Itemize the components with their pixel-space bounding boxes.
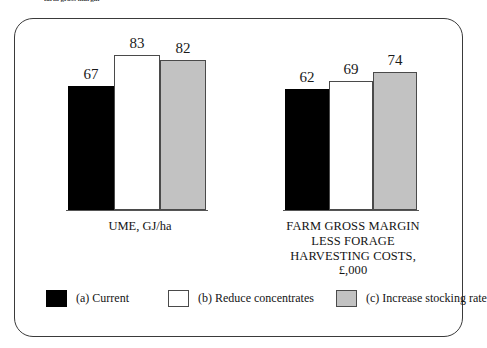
legend-label-reduce-concentrates: (b) Reduce concentrates <box>198 291 314 306</box>
group-label-fgm-line-2: LESS FORAGE <box>258 234 448 249</box>
group-label-ume: UME, GJ/ha <box>45 219 235 234</box>
baseline-farm-gross-margin <box>283 210 419 211</box>
legend: (a) Current (b) Reduce concentrates (c) … <box>46 288 446 310</box>
bar-slot-ume-increase-stocking-rate: 82 <box>160 0 206 210</box>
bar-slot-ume-reduce-concentrates: 83 <box>114 0 160 210</box>
baseline-ume <box>66 210 208 211</box>
legend-swatch-increase-stocking-rate-icon <box>336 290 357 307</box>
bar-value-fgm-reduce-concentrates: 69 <box>344 62 359 77</box>
legend-label-current: (a) Current <box>76 291 129 306</box>
bar-group-farm-gross-margin: 62 69 74 <box>285 0 417 210</box>
bar-group-ume: 67 83 82 <box>68 0 206 210</box>
legend-item-reduce-concentrates[interactable]: (b) Reduce concentrates <box>168 288 314 308</box>
legend-swatch-reduce-concentrates-icon <box>168 290 189 307</box>
group-label-fgm-line-3: HARVESTING COSTS, <box>258 249 448 264</box>
bar-value-fgm-increase-stocking-rate: 74 <box>388 53 403 68</box>
legend-item-increase-stocking-rate[interactable]: (c) Increase stocking rate <box>336 288 487 308</box>
group-label-farm-gross-margin: FARM GROSS MARGIN LESS FORAGE HARVESTING… <box>258 219 448 278</box>
legend-label-increase-stocking-rate: (c) Increase stocking rate <box>366 291 487 306</box>
group-label-fgm-line-1: FARM GROSS MARGIN <box>258 219 448 234</box>
group-label-fgm-line-4: £,000 <box>258 263 448 278</box>
bar-value-ume-reduce-concentrates: 83 <box>130 36 145 51</box>
legend-item-current[interactable]: (a) Current <box>46 288 129 308</box>
bar-ume-reduce-concentrates <box>114 55 160 210</box>
bar-value-fgm-current: 62 <box>300 70 315 85</box>
bar-fgm-increase-stocking-rate <box>373 72 417 210</box>
bar-value-ume-increase-stocking-rate: 82 <box>176 41 191 56</box>
bar-slot-fgm-increase-stocking-rate: 74 <box>373 0 417 210</box>
bar-fgm-reduce-concentrates <box>329 81 373 210</box>
group-label-ume-line-1: UME, GJ/ha <box>45 219 235 234</box>
bar-ume-current <box>68 86 114 210</box>
bar-slot-fgm-current: 62 <box>285 0 329 210</box>
bar-ume-increase-stocking-rate <box>160 60 206 210</box>
bar-slot-ume-current: 67 <box>68 0 114 210</box>
bar-slot-fgm-reduce-concentrates: 69 <box>329 0 373 210</box>
bar-fgm-current <box>285 89 329 210</box>
bar-value-ume-current: 67 <box>84 67 99 82</box>
legend-swatch-current-icon <box>46 290 67 307</box>
